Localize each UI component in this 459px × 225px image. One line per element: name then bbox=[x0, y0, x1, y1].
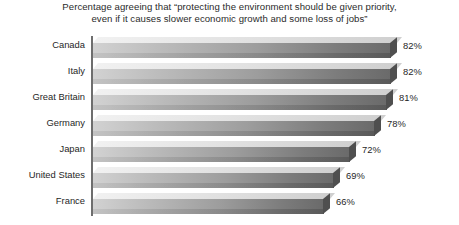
category-label: France bbox=[0, 195, 85, 207]
chart-title: Percentage agreeing that “protecting the… bbox=[0, 1, 459, 25]
bar-row: France 66% bbox=[0, 190, 459, 215]
bar-front-face bbox=[93, 95, 387, 110]
bar-front-face bbox=[93, 121, 375, 136]
chart-title-line-1: Percentage agreeing that “protecting the… bbox=[0, 1, 459, 13]
category-label: Canada bbox=[0, 39, 85, 51]
bar-row: United States 69% bbox=[0, 164, 459, 189]
category-label: Great Britain bbox=[0, 91, 85, 103]
bar-row: Great Britain 81% bbox=[0, 86, 459, 111]
bar-row: Japan 72% bbox=[0, 138, 459, 163]
bar-front-face bbox=[93, 69, 391, 84]
value-label: 81% bbox=[399, 92, 418, 104]
bar-germany bbox=[93, 115, 381, 137]
category-label: Germany bbox=[0, 117, 85, 129]
bar-front-face bbox=[93, 199, 324, 214]
bar-front-face bbox=[93, 173, 334, 188]
chart-container: Percentage agreeing that “protecting the… bbox=[0, 0, 459, 225]
value-label: 72% bbox=[362, 144, 381, 156]
bar-canada bbox=[93, 37, 397, 59]
bar-great-britain bbox=[93, 89, 393, 111]
category-label: Italy bbox=[0, 65, 85, 77]
bar-row: Italy 82% bbox=[0, 60, 459, 85]
value-label: 82% bbox=[403, 40, 422, 52]
bar-row: Germany 78% bbox=[0, 112, 459, 137]
bar-front-face bbox=[93, 43, 391, 58]
bar-united-states bbox=[93, 167, 340, 189]
bar-front-face bbox=[93, 147, 350, 162]
bar-france bbox=[93, 193, 330, 215]
bar-japan bbox=[93, 141, 356, 163]
bar-row: Canada 82% bbox=[0, 34, 459, 59]
category-label: United States bbox=[0, 169, 85, 181]
value-label: 66% bbox=[336, 196, 355, 208]
plot-area: Canada 82% Italy 82% Great Britain bbox=[0, 34, 459, 220]
value-label: 82% bbox=[403, 66, 422, 78]
value-label: 78% bbox=[387, 118, 406, 130]
bar-italy bbox=[93, 63, 397, 85]
value-label: 69% bbox=[346, 170, 365, 182]
category-label: Japan bbox=[0, 143, 85, 155]
chart-title-line-2: even if it causes slower economic growth… bbox=[0, 13, 459, 25]
